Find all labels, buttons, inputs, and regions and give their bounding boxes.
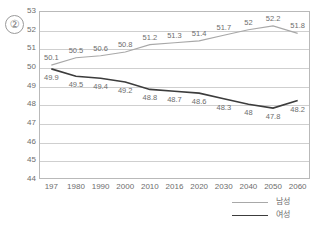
y-tick-label: 46	[2, 138, 36, 146]
y-tick-label: 44	[2, 175, 36, 183]
value-label: 51.8	[290, 22, 305, 30]
y-axis-tick-labels: 44454647484950515253	[0, 0, 36, 229]
y-tick-label: 49	[2, 82, 36, 90]
value-label: 51.4	[192, 30, 207, 38]
x-tick-label: 1980	[67, 182, 85, 191]
x-tick-label: 2030	[215, 182, 233, 191]
value-label: 51.3	[167, 32, 182, 40]
value-label: 52.2	[266, 15, 281, 23]
y-tick-label: 52	[2, 26, 36, 34]
legend-item-female[interactable]: 여성	[232, 209, 318, 222]
chart-legend: 남성 여성	[232, 196, 318, 224]
legend-swatch-female-icon	[232, 215, 268, 216]
value-label: 48	[244, 109, 252, 117]
x-tick-label: 2000	[116, 182, 134, 191]
x-tick-label: 1990	[92, 182, 110, 191]
y-tick-label: 50	[2, 63, 36, 71]
value-label: 48.7	[167, 96, 182, 104]
x-tick-label: 2016	[166, 182, 184, 191]
chart-root: ② 44454647484950515253 50.150.550.650.85…	[0, 0, 322, 229]
value-label: 51.2	[143, 34, 158, 42]
value-label: 50.6	[93, 45, 108, 53]
value-label: 47.8	[266, 113, 281, 121]
x-tick-label: 2040	[240, 182, 258, 191]
y-tick-label: 47	[2, 119, 36, 127]
y-tick-label: 53	[2, 7, 36, 15]
y-tick-label: 45	[2, 156, 36, 164]
value-label: 52	[244, 19, 252, 27]
value-label: 50.1	[44, 54, 59, 62]
legend-item-male[interactable]: 남성	[232, 196, 318, 209]
value-label: 49.5	[69, 81, 84, 89]
x-tick-label: 197	[45, 182, 58, 191]
value-label: 49.2	[118, 87, 133, 95]
y-tick-label: 51	[2, 44, 36, 52]
x-tick-label: 2060	[289, 182, 307, 191]
value-label: 50.8	[118, 41, 133, 49]
legend-label-female: 여성	[276, 209, 290, 221]
x-tick-label: 2050	[264, 182, 282, 191]
value-label: 49.9	[44, 74, 59, 82]
legend-label-male: 남성	[276, 196, 290, 208]
x-tick-label: 2020	[190, 182, 208, 191]
x-axis-tick-labels: 1971980199020002010201620202030204020502…	[39, 182, 310, 194]
y-tick-label: 48	[2, 100, 36, 108]
value-label: 51.7	[216, 24, 231, 32]
value-label: 48.2	[290, 106, 305, 114]
value-label: 48.8	[143, 94, 158, 102]
value-label: 48.3	[216, 104, 231, 112]
value-label: 48.6	[192, 98, 207, 106]
legend-swatch-male-icon	[232, 202, 268, 203]
value-label: 50.5	[69, 47, 84, 55]
value-label: 49.4	[93, 83, 108, 91]
x-tick-label: 2010	[141, 182, 159, 191]
